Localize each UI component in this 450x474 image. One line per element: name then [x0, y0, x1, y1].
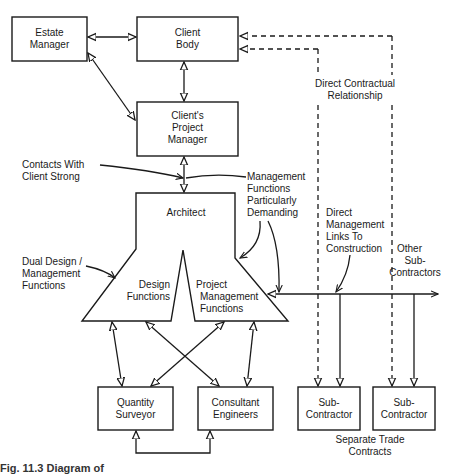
line: Links To [326, 231, 384, 243]
project-management-functions-label: Project Management Functions [196, 279, 258, 315]
line: Other [385, 243, 445, 255]
line: Surveyor [98, 409, 173, 421]
line: Design [124, 279, 170, 291]
contacts-with-client-annotation: Contacts With Client Strong [22, 159, 84, 183]
line: Management [196, 291, 258, 303]
line: Sub- [298, 397, 360, 409]
line: Particularly [247, 195, 305, 207]
line: Construction [326, 243, 384, 255]
separate-trade-annotation: Separate Trade Contracts [315, 434, 425, 458]
line: Sub- [373, 397, 435, 409]
line: Manager [12, 39, 87, 51]
figure-caption: Fig. 11.3 Diagram of [0, 462, 104, 474]
line: Body [137, 39, 238, 51]
line: Sub- [385, 255, 445, 267]
line: Functions [22, 280, 82, 292]
line: Management [247, 171, 305, 183]
design-functions-label: Design Functions [124, 279, 170, 303]
line: Contractor [373, 409, 435, 421]
line: Contracts [315, 446, 425, 458]
quantity-surveyor-label: Quantity Surveyor [98, 397, 173, 421]
line: Engineers [198, 409, 273, 421]
line: Demanding [247, 207, 305, 219]
line: Client [137, 27, 238, 39]
direct-management-links-annotation: Direct Management Links To Construction [326, 207, 384, 255]
architect-label: Architect [137, 207, 235, 219]
line: Functions [124, 291, 170, 303]
line: Quantity [98, 397, 173, 409]
line: Contractors [385, 267, 445, 279]
line: Relationship [312, 90, 398, 102]
line: Client's [137, 110, 238, 122]
clients-project-manager-label: Client's Project Manager [137, 110, 238, 146]
line: Direct Contractual [312, 78, 398, 90]
line: Client Strong [22, 171, 84, 183]
estate-manager-label: Estate Manager [12, 27, 87, 51]
consultant-engineers-label: Consultant Engineers [198, 397, 273, 421]
sub-contractor-label-1: Sub- Contractor [298, 397, 360, 421]
line: Project [137, 122, 238, 134]
sub-contractor-label-2: Sub- Contractor [373, 397, 435, 421]
management-demanding-annotation: Management Functions Particularly Demand… [247, 171, 305, 219]
line: Consultant [198, 397, 273, 409]
line: Contractor [298, 409, 360, 421]
line: Dual Design / [22, 256, 82, 268]
line: Management [326, 219, 384, 231]
line: Management [22, 268, 82, 280]
dual-design-annotation: Dual Design / Management Functions [22, 256, 82, 292]
line: Contacts With [22, 159, 84, 171]
line: Separate Trade [315, 434, 425, 446]
line: Manager [137, 134, 238, 146]
line: Project [196, 279, 258, 291]
direct-contractual-annotation: Direct Contractual Relationship [312, 78, 398, 102]
line: Functions [247, 183, 305, 195]
line: Direct [326, 207, 384, 219]
line: Estate [12, 27, 87, 39]
line: Functions [196, 303, 258, 315]
other-subcontractors-annotation: Other Sub- Contractors [385, 243, 445, 279]
client-body-label: Client Body [137, 27, 238, 51]
estate-pm-link [88, 53, 135, 120]
